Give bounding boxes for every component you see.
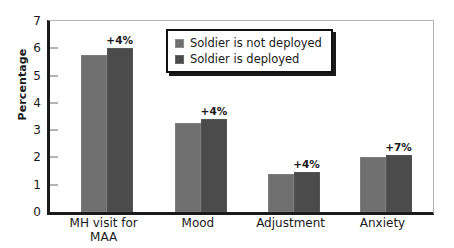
y-axis-tick-label: 4: [33, 96, 41, 110]
legend-item-label: Soldier is not deployed: [190, 36, 322, 50]
y-axis-tick-mark: [50, 75, 58, 76]
bar: [107, 48, 133, 212]
y-axis-tick-mark: [50, 130, 58, 131]
bar: [386, 155, 412, 212]
legend-item: Soldier is not deployed: [175, 35, 322, 51]
chart-legend: Soldier is not deployed Soldier is deplo…: [166, 29, 333, 73]
bar: [81, 55, 107, 212]
y-axis-tick-label: 2: [33, 150, 41, 164]
bar: [294, 172, 320, 212]
y-axis-tick-mark: [50, 102, 58, 103]
bar-value-annotation: +4%: [293, 158, 320, 170]
bar-value-annotation: +4%: [201, 105, 228, 117]
y-axis-tick-label: 7: [33, 14, 41, 28]
legend-item-label: Soldier is deployed: [190, 52, 299, 66]
bar-value-annotation: +4%: [106, 34, 133, 46]
bar: [175, 123, 201, 212]
legend-item: Soldier is deployed: [175, 51, 322, 67]
x-axis-category-label: Anxiety: [328, 216, 438, 230]
bar: [268, 174, 294, 212]
bar: [201, 119, 227, 212]
y-axis-tick-mark: [50, 157, 58, 158]
y-axis-tick-mark: [50, 184, 58, 185]
legend-swatch-icon: [175, 39, 184, 48]
y-axis-tick-label: 5: [33, 69, 41, 83]
bar-value-annotation: +7%: [385, 141, 412, 153]
y-axis-title: Percentage: [16, 35, 29, 135]
legend-swatch-icon: [175, 55, 184, 64]
y-axis-tick-label: 3: [33, 123, 41, 137]
bar: [360, 157, 386, 212]
y-axis-tick-label: 0: [33, 205, 41, 219]
y-axis-tick-mark: [50, 48, 58, 49]
y-axis-tick-label: 1: [33, 178, 41, 192]
bar-chart: Percentage 01234567+4%+4%+4%+7% MH visit…: [0, 0, 454, 248]
y-axis-tick-label: 6: [33, 41, 41, 55]
